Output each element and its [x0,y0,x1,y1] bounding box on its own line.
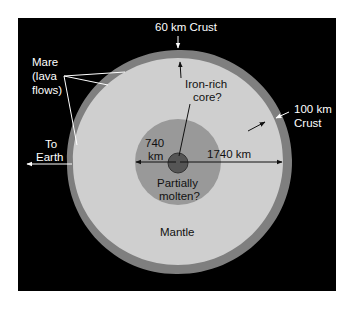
iron-core [168,153,188,173]
label-100km-crust-1: 100 km [294,103,332,115]
label-partially-molten-1: Partially [157,177,198,189]
moon-interior-diagram: 60 km Crust Mare (lava flows) To Earth I… [0,0,358,310]
label-iron-core-2: core? [193,91,222,103]
label-mare-1: Mare [32,56,58,68]
label-mare-3: flows) [32,84,62,96]
label-740km-1: 740 [145,137,164,149]
label-60km-crust: 60 km Crust [155,21,218,33]
label-to-earth-1: To [45,138,57,150]
label-100km-crust-2: Crust [294,117,322,129]
label-740km-2: km [148,150,163,162]
label-iron-core-1: Iron-rich [185,78,227,90]
label-mantle: Mantle [160,226,195,238]
label-to-earth-2: Earth [36,151,64,163]
label-1740km: 1740 km [207,148,251,160]
label-mare-2: (lava [32,70,58,82]
label-partially-molten-2: molten? [159,190,200,202]
